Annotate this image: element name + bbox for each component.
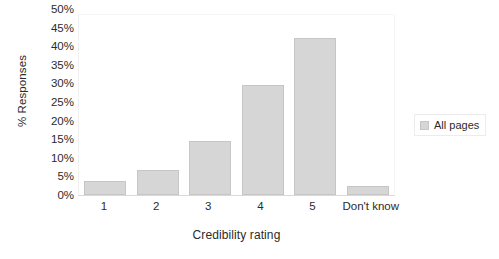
legend-label: All pages: [434, 119, 479, 131]
y-axis-tick-label: 45%: [30, 23, 74, 34]
bar-slot: [342, 15, 395, 195]
y-axis-tick-label: 20%: [30, 116, 74, 127]
y-axis-tick-label: 35%: [30, 60, 74, 71]
y-axis-title: % Responses: [16, 36, 28, 146]
bar-slot: [237, 15, 290, 195]
bar: [189, 141, 231, 195]
y-axis-tick-label: 50%: [30, 4, 74, 15]
y-axis-tick-label: 5%: [30, 171, 74, 182]
y-axis-tick-label: 10%: [30, 153, 74, 164]
x-axis-title: Credibility rating: [78, 228, 395, 242]
x-axis-tick-label: 4: [234, 200, 286, 212]
x-axis-tick-label: 3: [182, 200, 234, 212]
x-axis-tick-label: 5: [286, 200, 338, 212]
bar: [347, 186, 389, 195]
bar-slot: [132, 15, 185, 195]
legend: All pages: [414, 114, 486, 136]
bar: [294, 38, 336, 195]
bar-slot: [184, 15, 237, 195]
y-axis-tick-label: 15%: [30, 134, 74, 145]
y-axis-tick-label: 40%: [30, 41, 74, 52]
x-axis-tick-labels: 12345Don't know: [78, 200, 395, 212]
x-axis-tick-label: 2: [130, 200, 182, 212]
bar: [84, 181, 126, 195]
legend-swatch-icon: [420, 121, 429, 130]
y-axis-tick-label: 0%: [30, 190, 74, 201]
y-axis-tick-label: 25%: [30, 97, 74, 108]
bar: [242, 85, 284, 195]
x-axis-tick-label: Don't know: [342, 200, 399, 212]
plot-area: [78, 14, 395, 196]
bar-slot: [79, 15, 132, 195]
x-axis-tick-label: 1: [78, 200, 130, 212]
bar-chart: % Responses 50%45%40%35%30%25%20%15%10%5…: [0, 0, 499, 259]
y-axis-tick-label: 30%: [30, 78, 74, 89]
bar-group: [79, 15, 394, 195]
y-axis-tick-labels: 50%45%40%35%30%25%20%15%10%5%0%: [30, 9, 74, 195]
bar: [137, 170, 179, 195]
bar-slot: [289, 15, 342, 195]
